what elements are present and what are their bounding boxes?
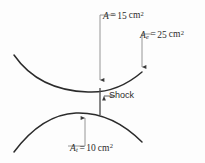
label-area-throat-exponent: 2 bbox=[109, 142, 113, 149]
label-area-shock-unit: cm bbox=[127, 10, 141, 20]
leader-line-area-shock bbox=[100, 15, 116, 80]
label-area-exit-unit: cm bbox=[167, 29, 181, 39]
nozzle-shock-diagram: A=15cm2 Ae=25cm2 At=10cm2 Shock bbox=[0, 0, 205, 163]
label-area-exit-symbol: A bbox=[140, 29, 146, 39]
label-area-shock: A=15cm2 bbox=[103, 11, 144, 21]
label-shock: Shock bbox=[109, 91, 134, 100]
label-area-exit: Ae=25cm2 bbox=[140, 30, 184, 41]
label-area-exit-exponent: 2 bbox=[180, 29, 184, 36]
label-area-exit-value: 25 bbox=[157, 29, 167, 39]
label-area-shock-value: 15 bbox=[117, 10, 127, 20]
upper-nozzle-wall bbox=[14, 55, 142, 92]
label-area-shock-exponent: 2 bbox=[140, 10, 144, 17]
label-area-shock-equals: = bbox=[109, 10, 117, 20]
diagram-canvas bbox=[0, 0, 205, 163]
label-area-throat-unit: cm bbox=[96, 143, 110, 153]
label-area-throat: At=10cm2 bbox=[70, 143, 113, 154]
leader-line-area-throat bbox=[68, 118, 85, 146]
label-area-shock-symbol: A bbox=[103, 10, 109, 20]
label-area-throat-symbol: A bbox=[70, 143, 76, 153]
label-area-throat-value: 10 bbox=[86, 143, 96, 153]
